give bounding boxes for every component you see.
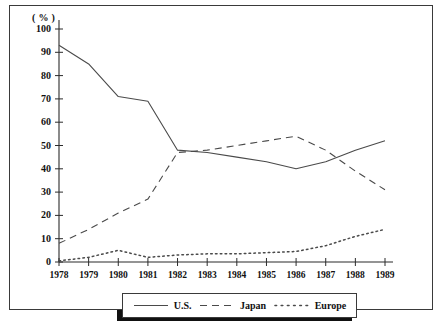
- y-tick-label: 70: [25, 93, 51, 104]
- series-line-us: [59, 45, 385, 168]
- legend-label: U.S.: [174, 300, 192, 311]
- legend-item-japan[interactable]: Japan: [199, 300, 266, 311]
- chart-svg: [10, 6, 434, 311]
- y-tick-label: 80: [25, 70, 51, 81]
- y-tick-label: 60: [25, 116, 51, 127]
- x-tick-label: 1989: [365, 270, 405, 280]
- y-tick-label: 40: [25, 163, 51, 174]
- y-tick-label: 30: [25, 186, 51, 197]
- legend-item-us[interactable]: U.S.: [133, 300, 192, 311]
- legend-swatch-dotted: [274, 301, 310, 310]
- series-line-japan: [59, 136, 385, 243]
- y-tick-label: 100: [25, 23, 51, 34]
- y-tick-label: 0: [25, 256, 51, 267]
- plot-area: ( % ) 0102030405060708090100 19781979198…: [10, 6, 434, 311]
- y-tick-label: 10: [25, 233, 51, 244]
- y-tick-label: 90: [25, 46, 51, 57]
- axes-group: [55, 20, 393, 266]
- legend-label: Europe: [315, 300, 347, 311]
- series-line-europe: [59, 229, 385, 260]
- chart-frame: ( % ) 0102030405060708090100 19781979198…: [9, 5, 433, 310]
- series-group: [59, 45, 385, 261]
- legend-swatch-dashed: [199, 301, 235, 310]
- legend-label: Japan: [240, 300, 266, 311]
- chart-legend: U.S.JapanEurope: [122, 293, 357, 318]
- legend-swatch-solid: [133, 301, 169, 310]
- y-tick-label: 50: [25, 140, 51, 151]
- legend-item-europe[interactable]: Europe: [274, 300, 347, 311]
- y-tick-label: 20: [25, 209, 51, 220]
- chart-page: ( % ) 0102030405060708090100 19781979198…: [0, 0, 444, 334]
